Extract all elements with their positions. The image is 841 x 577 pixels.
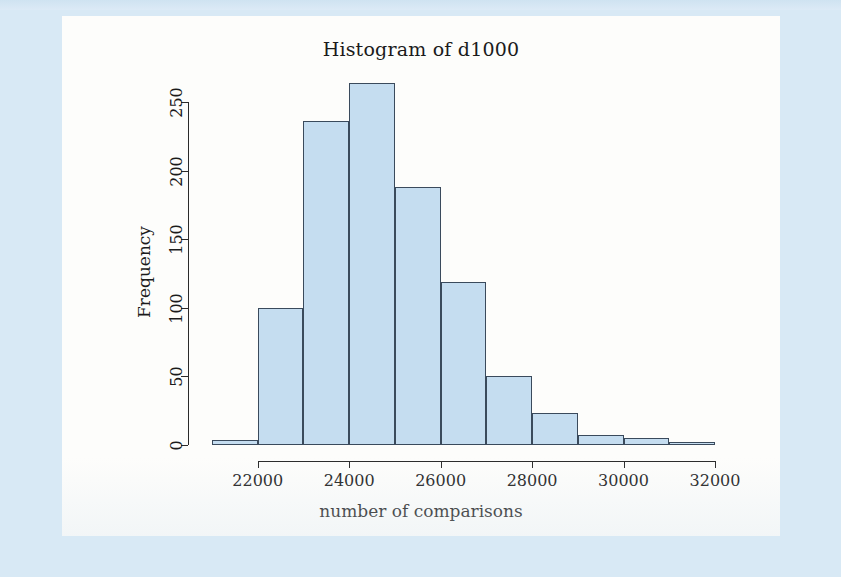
histogram-bar (486, 376, 532, 445)
screenshot-root: Histogram of d1000 220002400026000280003… (0, 0, 841, 577)
y-axis-tick-label: 200 (167, 146, 186, 196)
y-axis-line (188, 102, 189, 445)
y-axis-tick-label: 250 (167, 78, 186, 128)
x-axis-tick-label: 24000 (324, 471, 375, 490)
histogram-bar (395, 187, 441, 445)
x-axis-tick (532, 461, 533, 468)
histogram-bar (349, 83, 395, 445)
histogram-bar (258, 308, 304, 445)
histogram-bar (532, 413, 578, 445)
x-axis-tick (624, 461, 625, 468)
y-axis-tick-label: 0 (167, 421, 186, 471)
histogram-bar (212, 440, 258, 445)
y-axis-title: Frequency (134, 192, 154, 352)
x-axis-tick-label: 32000 (690, 471, 741, 490)
x-axis-tick-label: 30000 (598, 471, 649, 490)
histogram-bar (669, 442, 715, 445)
figure-panel: Histogram of d1000 220002400026000280003… (62, 16, 780, 536)
x-axis-tick-label: 26000 (415, 471, 466, 490)
x-axis-line (258, 461, 715, 462)
histogram-bar (303, 121, 349, 445)
y-axis-tick-label: 100 (167, 283, 186, 333)
histogram-bar (578, 435, 624, 445)
scan-band (0, 0, 841, 10)
x-axis-tick (441, 461, 442, 468)
histogram-bar (624, 438, 670, 445)
x-axis-tick (715, 461, 716, 468)
x-axis-tick (349, 461, 350, 468)
chart-title: Histogram of d1000 (62, 38, 780, 60)
x-axis-tick (258, 461, 259, 468)
y-axis-tick-label: 150 (167, 215, 186, 265)
x-axis-tick-label: 28000 (507, 471, 558, 490)
x-axis-title: number of comparisons (62, 501, 780, 521)
y-axis-tick-label: 50 (167, 352, 186, 402)
x-axis-tick-label: 22000 (232, 471, 283, 490)
histogram-plot: Histogram of d1000 220002400026000280003… (62, 16, 780, 536)
histogram-bar (441, 282, 487, 445)
